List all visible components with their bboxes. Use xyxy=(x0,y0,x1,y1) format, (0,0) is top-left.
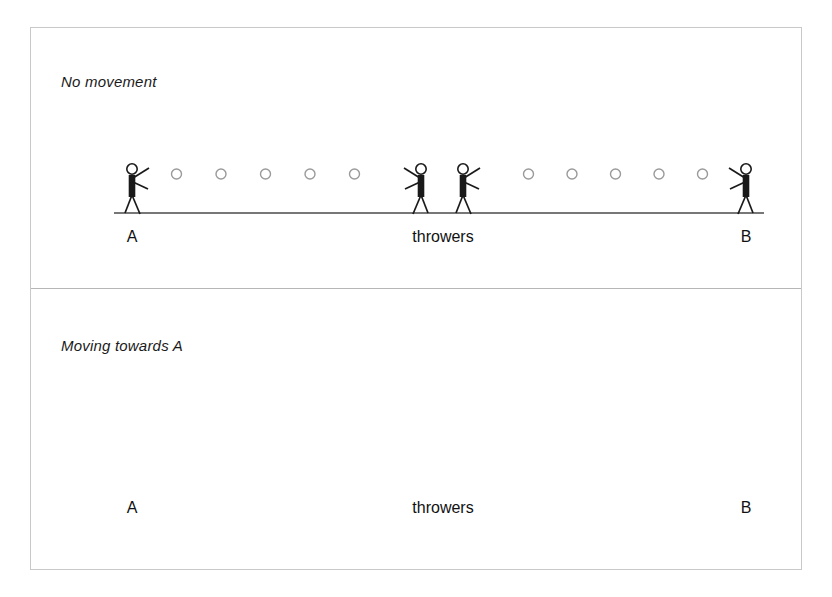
figure-head xyxy=(741,164,751,174)
figure-page: No movement A throwers B Moving towards … xyxy=(0,0,832,597)
stick-figure-2 xyxy=(456,164,480,214)
figure-torso xyxy=(418,175,425,197)
ball xyxy=(305,169,315,179)
panel-divider xyxy=(31,288,801,289)
label-throwers-top: throwers xyxy=(412,228,473,246)
figure-leg-front xyxy=(463,195,471,214)
scene-moving-towards-a xyxy=(31,289,803,571)
figure-leg-front xyxy=(413,195,421,214)
figure-frame: No movement A throwers B Moving towards … xyxy=(30,27,802,570)
figure-leg-front xyxy=(738,195,746,214)
ball xyxy=(350,169,360,179)
figure-torso xyxy=(129,175,136,197)
figure-leg-back xyxy=(125,195,132,213)
label-point-b-top: B xyxy=(741,228,752,246)
figure-torso xyxy=(743,175,750,197)
stick-figure-0 xyxy=(125,164,149,214)
ball xyxy=(611,169,621,179)
ball xyxy=(654,169,664,179)
label-point-a-bottom: A xyxy=(127,499,138,517)
label-throwers-bottom: throwers xyxy=(412,499,473,517)
figure-leg-front xyxy=(132,195,140,214)
stick-figure-3 xyxy=(729,164,753,214)
figure-leg-back xyxy=(746,195,753,213)
label-point-b-bottom: B xyxy=(741,499,752,517)
figure-head xyxy=(127,164,137,174)
ball xyxy=(698,169,708,179)
ball xyxy=(261,169,271,179)
figure-head xyxy=(458,164,468,174)
figure-torso xyxy=(460,175,467,197)
scene-no-movement xyxy=(31,28,803,288)
label-point-a-top: A xyxy=(127,228,138,246)
ball xyxy=(567,169,577,179)
stick-figure-1 xyxy=(404,164,428,214)
ball xyxy=(524,169,534,179)
figure-leg-back xyxy=(456,195,463,213)
panel-moving-towards-a: Moving towards A A throwers B xyxy=(31,289,803,571)
ball xyxy=(172,169,182,179)
ball xyxy=(216,169,226,179)
figure-head xyxy=(416,164,426,174)
panel-no-movement: No movement A throwers B xyxy=(31,28,803,288)
figure-leg-back xyxy=(421,195,428,213)
